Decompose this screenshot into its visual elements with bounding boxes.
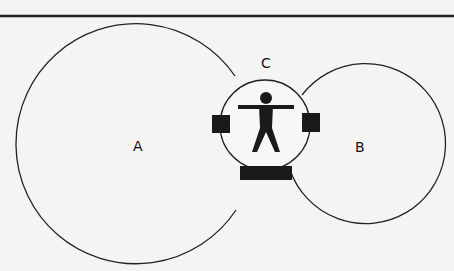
label-a: A [133, 138, 143, 154]
right-block [302, 113, 320, 132]
circle-a [16, 24, 236, 264]
label-c: C [261, 55, 271, 71]
left-block [212, 115, 230, 133]
diagram-canvas: A B C [0, 0, 454, 271]
circle-b [290, 64, 446, 224]
bottom-block [240, 166, 292, 180]
label-b: B [355, 139, 365, 155]
